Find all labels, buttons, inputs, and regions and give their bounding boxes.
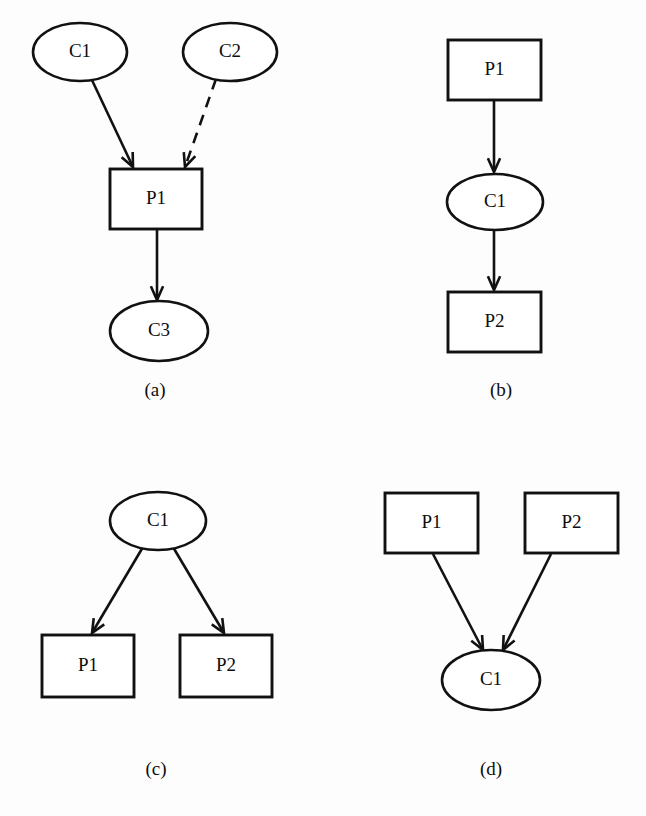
solid-edge-line <box>173 547 223 631</box>
edge-a-c1-to-a-p1 <box>91 78 133 167</box>
node-label: C1 <box>480 668 502 689</box>
panel-caption-b: (b) <box>490 379 512 401</box>
node-label: C1 <box>69 40 91 61</box>
panel-caption-a: (a) <box>144 379 165 401</box>
panel-caption-c: (c) <box>145 758 166 780</box>
solid-edge-line <box>433 554 482 648</box>
edge-b-c1-to-b-p2 <box>488 231 500 290</box>
panel-caption-d: (d) <box>480 758 502 780</box>
solid-edge-line <box>504 554 551 648</box>
solid-edge-line <box>91 78 132 165</box>
node-d-p1[interactable]: P1 <box>385 493 478 553</box>
node-label: P1 <box>78 654 98 675</box>
node-c-c1[interactable]: C1 <box>110 492 206 550</box>
panel-b: P1C1P2(b) <box>447 40 543 401</box>
node-a-c2[interactable]: C2 <box>183 23 277 81</box>
edge-d-p1-to-d-c1 <box>433 554 483 650</box>
node-d-c1[interactable]: C1 <box>442 650 540 710</box>
node-d-p2[interactable]: P2 <box>525 493 618 553</box>
edge-a-p1-to-a-c3 <box>151 230 163 300</box>
panel-a: C1C2P1C3(a) <box>33 23 277 401</box>
node-label: P2 <box>216 654 236 675</box>
node-b-c1[interactable]: C1 <box>447 174 543 230</box>
node-b-p2[interactable]: P2 <box>448 292 541 352</box>
edge-c-c1-to-c-p2 <box>173 547 224 633</box>
edge-b-p1-to-b-c1 <box>488 101 500 172</box>
node-label: P1 <box>146 187 166 208</box>
node-label: P2 <box>561 511 581 532</box>
node-label: C2 <box>219 40 241 61</box>
node-label: P1 <box>421 511 441 532</box>
edge-d-p2-to-d-c1 <box>503 554 551 650</box>
node-a-p1[interactable]: P1 <box>110 169 202 229</box>
node-a-c3[interactable]: C3 <box>110 301 208 361</box>
node-label: C3 <box>148 319 170 340</box>
panel-d: P1P2C1(d) <box>385 493 618 780</box>
node-label: C1 <box>147 509 169 530</box>
node-c-p1[interactable]: P1 <box>42 635 134 697</box>
node-label: C1 <box>484 190 506 211</box>
panels-layer: C1C2P1C3(a)P1C1P2(b)C1P1P2(c)P1P2C1(d) <box>33 23 618 780</box>
edge-a-c2-to-a-p1 <box>184 79 216 167</box>
diagram-canvas: C1C2P1C3(a)P1C1P2(b)C1P1P2(c)P1P2C1(d) <box>0 0 646 816</box>
node-label: P2 <box>484 310 504 331</box>
node-a-c1[interactable]: C1 <box>33 23 127 81</box>
node-b-p1[interactable]: P1 <box>448 40 541 100</box>
node-c-p2[interactable]: P2 <box>180 635 272 697</box>
edge-c-c1-to-c-p1 <box>92 547 143 633</box>
figure-root: C1C2P1C3(a)P1C1P2(b)C1P1P2(c)P1P2C1(d) <box>0 0 646 816</box>
node-label: P1 <box>484 58 504 79</box>
panel-c: C1P1P2(c) <box>42 492 272 780</box>
dashed-edge-line <box>186 79 216 165</box>
solid-edge-line <box>93 547 143 631</box>
